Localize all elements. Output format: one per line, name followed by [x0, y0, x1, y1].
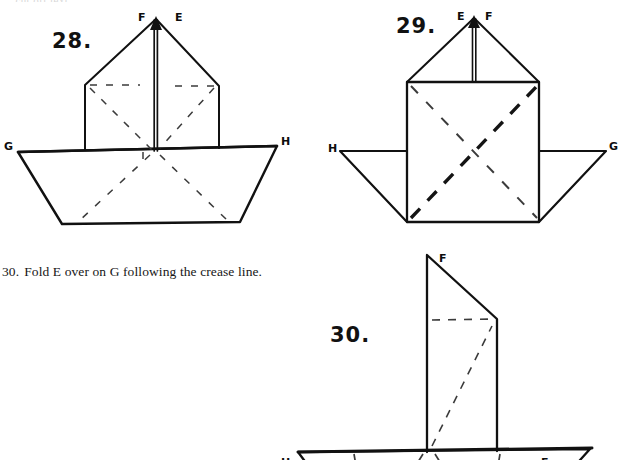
figure-30-label-F: F	[439, 252, 447, 265]
instruction-line-30: 30.Fold E over on G following the crease…	[2, 264, 262, 280]
figure-29-left-wing	[340, 151, 407, 222]
figure-30-number: 30.	[330, 323, 370, 347]
figure-28-label-G: G	[4, 140, 13, 153]
figure-30-sail-creases	[432, 319, 493, 446]
figure-28-right-sail	[156, 19, 219, 148]
figure-30-label-H: H	[281, 456, 290, 460]
figure-28-label-F: F	[138, 11, 146, 24]
figure-28-right-sail-creases	[160, 86, 214, 148]
figure-29-number: 29.	[396, 14, 436, 38]
figure-29-label-F: F	[485, 10, 493, 23]
figure-28-left-sail-creases	[90, 85, 152, 150]
figure-29-label-E: E	[457, 10, 465, 23]
instruction-number: 30.	[2, 264, 19, 279]
figure-28-drawing: 28. F E G H	[0, 0, 311, 235]
figure-29-right-wing	[539, 151, 606, 222]
figure-30-sail	[427, 255, 497, 452]
figure-29-drawing: 29. E F H G	[311, 0, 622, 235]
figure-28-label-E: E	[175, 11, 183, 24]
instruction-text: Fold E over on G following the crease li…	[24, 264, 262, 279]
figure-30-drawing: 30. F H E G	[260, 240, 622, 460]
figure-28-label-H: H	[281, 135, 290, 148]
figure-29-label-G: G	[609, 140, 618, 153]
figure-29-label-H: H	[328, 142, 337, 155]
figure-30-label-E: E	[541, 456, 549, 460]
figure-28-number: 28.	[52, 29, 92, 53]
